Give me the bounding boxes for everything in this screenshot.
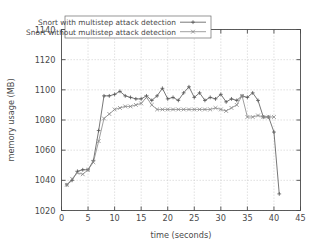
y-tick-label: 1020 <box>35 206 56 216</box>
y-tick-label: 1040 <box>35 175 56 185</box>
legend-label-series2: Snort without multistep attack detection <box>26 28 176 37</box>
x-tick-label: 25 <box>189 213 199 223</box>
y-axis-title: memory usage (MB) <box>6 78 16 161</box>
x-tick-label: 15 <box>136 213 146 223</box>
x-tick-label: 10 <box>109 213 119 223</box>
y-tick-label: 1120 <box>35 55 56 65</box>
x-tick-label: 5 <box>85 213 90 223</box>
legend-label-series1: Snort with multistep attack detection <box>38 18 176 27</box>
x-tick-label: 40 <box>269 213 279 223</box>
y-tick-label: 1100 <box>35 85 56 95</box>
x-tick-label: 35 <box>242 213 252 223</box>
y-tick-label: 1060 <box>35 145 56 155</box>
line-chart: 051015202530354045 102010401060108011001… <box>0 0 318 246</box>
x-tick-label: 30 <box>216 213 226 223</box>
y-tick-label: 1080 <box>35 115 56 125</box>
legend: Snort with multistep attack detection Sn… <box>26 16 211 38</box>
x-axis-title: time (seconds) <box>151 230 212 240</box>
x-tick-label: 45 <box>295 213 305 223</box>
x-tick-label: 0 <box>59 213 64 223</box>
chart-figure: 051015202530354045 102010401060108011001… <box>0 0 318 246</box>
x-tick-label: 20 <box>163 213 173 223</box>
